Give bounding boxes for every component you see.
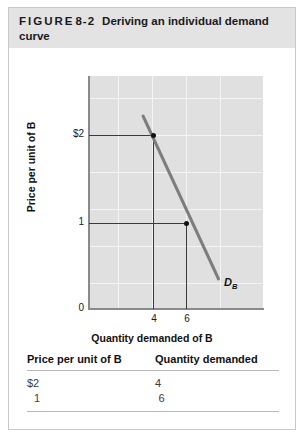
figure-label-word: FIGURE xyxy=(19,15,74,27)
table-cell-price: $2 xyxy=(27,376,155,391)
demand-curve xyxy=(9,48,295,338)
table-header-quantity: Quantity demanded xyxy=(155,353,279,370)
y-tick-label-0: 0 xyxy=(78,302,84,313)
data-table: Price per unit of B Quantity demanded $2… xyxy=(27,353,279,412)
curve-label-letter: D xyxy=(224,276,232,288)
y-tick-label-1: 1 xyxy=(78,216,84,227)
table-header-price: Price per unit of B xyxy=(27,353,155,370)
x-tick-label-4: 4 xyxy=(144,313,164,324)
curve-label-db: DB xyxy=(224,276,237,291)
table-cell-price: 1 xyxy=(27,391,158,406)
data-point-price1-qty6 xyxy=(184,221,189,226)
y-tick-label-2: $2 xyxy=(73,128,84,139)
figure-title: FIGURE8-2Deriving an individual demand c… xyxy=(19,14,285,43)
figure-header: FIGURE8-2Deriving an individual demand c… xyxy=(9,8,295,48)
table-header-row: Price per unit of B Quantity demanded xyxy=(27,353,279,370)
figure-container: FIGURE8-2Deriving an individual demand c… xyxy=(8,7,296,430)
table-row: $2 4 xyxy=(27,376,279,391)
data-point-price2-qty4 xyxy=(151,133,156,138)
x-tick-label-6: 6 xyxy=(177,313,197,324)
table-row: 1 6 xyxy=(27,391,279,406)
table-rule-bottom xyxy=(27,411,279,412)
table-cell-quantity: 6 xyxy=(158,391,279,406)
y-axis-title: Price per unit of B xyxy=(25,102,37,232)
table-cell-quantity: 4 xyxy=(155,376,279,391)
curve-label-subscript: B xyxy=(232,282,237,291)
x-axis-title: Quantity demanded of B xyxy=(9,332,295,344)
chart-region: DB $2 1 0 4 6 Price per unit of B Quanti… xyxy=(9,48,295,338)
figure-label-number: 8-2 xyxy=(75,15,95,27)
